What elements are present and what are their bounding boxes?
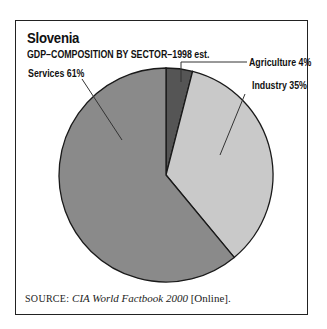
label-industry: Industry 35% [252, 79, 307, 91]
label-services: Services 61% [28, 67, 84, 79]
label-agriculture: Agriculture 4% [249, 56, 311, 68]
source-prefix: SOURCE: [25, 293, 69, 304]
pie-slices [59, 68, 273, 282]
pie-chart [0, 0, 327, 329]
source-suffix: [Online]. [191, 292, 231, 304]
source-title: CIA World Factbook 2000 [72, 292, 188, 304]
source-note: SOURCE: CIA World Factbook 2000 [Online]… [25, 292, 231, 304]
